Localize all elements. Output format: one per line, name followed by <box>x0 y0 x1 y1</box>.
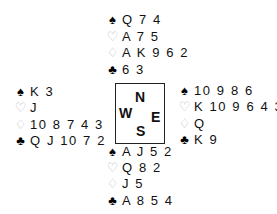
south-spades: A J 5 2 <box>122 144 173 160</box>
spade-icon: ♠ <box>14 84 27 100</box>
club-icon: ♣ <box>106 62 119 78</box>
east-diamonds: Q <box>194 116 206 132</box>
diamond-icon: ♢ <box>14 117 27 133</box>
heart-icon: ♡ <box>14 100 27 116</box>
compass-box: N W E S <box>115 83 165 144</box>
spade-icon: ♠ <box>106 144 119 160</box>
east-clubs: K 9 <box>194 132 218 148</box>
club-icon: ♣ <box>106 193 119 209</box>
west-diamonds: 10 8 7 4 3 <box>30 117 104 133</box>
south-hearts: Q 8 2 <box>122 160 162 176</box>
compass-west: W <box>119 106 132 120</box>
south-diamonds: J 5 <box>122 176 144 192</box>
west-hearts: J <box>30 100 38 116</box>
west-clubs: Q J 10 7 2 <box>30 133 106 149</box>
west-spades: K 3 <box>30 84 54 100</box>
east-spades: 10 9 8 6 <box>194 83 254 99</box>
spade-icon: ♠ <box>178 83 191 99</box>
diamond-icon: ♢ <box>106 45 119 61</box>
north-diamonds: A K 9 6 2 <box>122 45 189 61</box>
club-icon: ♣ <box>178 132 191 148</box>
north-clubs: 6 3 <box>122 62 145 78</box>
heart-icon: ♡ <box>106 160 119 176</box>
compass-east: E <box>151 110 160 124</box>
south-clubs: A 8 5 4 <box>122 193 174 209</box>
east-hearts: K 10 9 6 4 3 <box>194 99 277 115</box>
club-icon: ♣ <box>14 133 27 149</box>
diamond-icon: ♢ <box>106 176 119 192</box>
compass-north: N <box>135 90 145 104</box>
diamond-icon: ♢ <box>178 116 191 132</box>
heart-icon: ♡ <box>178 99 191 115</box>
north-hearts: A 7 5 <box>122 29 160 45</box>
compass-south: S <box>136 124 145 138</box>
spade-icon: ♠ <box>106 12 119 28</box>
heart-icon: ♡ <box>106 29 119 45</box>
north-spades: Q 7 4 <box>122 12 162 28</box>
